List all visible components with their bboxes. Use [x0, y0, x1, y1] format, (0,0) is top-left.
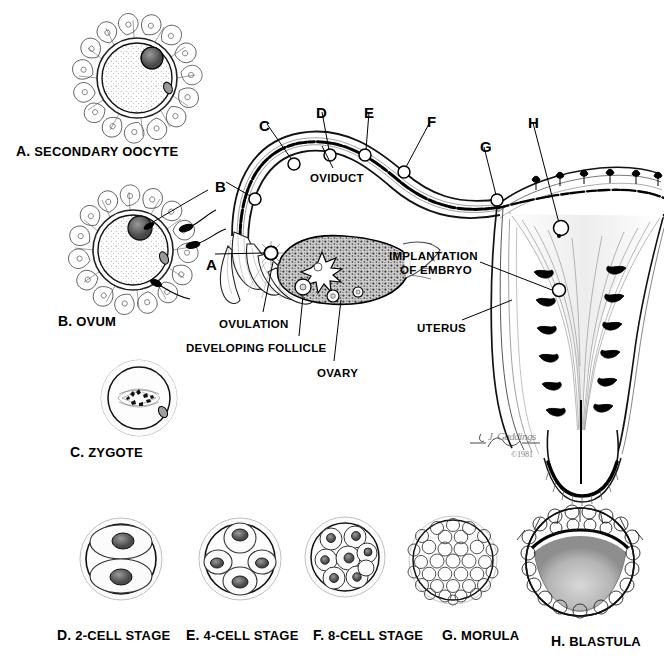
stage-letter-f: F.: [313, 627, 324, 643]
anatomy-illustration: [0, 0, 664, 660]
stage-name-g: MORULA: [461, 628, 519, 643]
label-ovary: OVARY: [317, 367, 358, 380]
stage-caption-h: H. BLASTULA: [551, 633, 641, 649]
stage-letter-d: D.: [57, 627, 71, 643]
marker-D: [324, 149, 336, 161]
marker-letter-f: F: [427, 113, 436, 130]
label-implantation-line2: OF EMBRYO: [400, 264, 472, 277]
stage-name-d: 2-CELL STAGE: [75, 628, 170, 643]
stage-caption-c: C. ZYGOTE: [70, 444, 143, 460]
stage-caption-a: A. SECONDARY OOCYTE: [16, 143, 178, 159]
figure-canvas: A. SECONDARY OOCYTE B. OVUM C. ZYGOTE D.…: [0, 0, 664, 660]
marker-letter-h: H: [528, 114, 539, 131]
stage-letter-e: E.: [186, 627, 200, 643]
leader-uterus: [462, 300, 512, 320]
marker-letter-a: A: [206, 256, 217, 273]
stage-letter-b: B.: [58, 313, 72, 329]
cell-ovum: [67, 185, 226, 316]
stage-caption-g: G. MORULA: [442, 627, 519, 643]
stage-name-c: ZYGOTE: [88, 445, 143, 460]
stage-letter-c: C.: [70, 444, 84, 460]
stage-caption-d: D. 2-CELL STAGE: [57, 627, 170, 643]
stage-name-h: BLASTULA: [569, 634, 641, 649]
marker-G: [491, 194, 503, 206]
stage-caption-e: E. 4-CELL STAGE: [186, 627, 299, 643]
leader-H: [533, 123, 559, 223]
marker-C: [288, 158, 300, 170]
cell-secondary-oocyte: [71, 12, 202, 144]
marker-letter-c: C: [259, 117, 270, 134]
marker-B: [249, 193, 261, 205]
cell-zygote: [101, 360, 177, 436]
label-ovulation: OVULATION: [219, 318, 289, 331]
label-uterus: UTERUS: [417, 322, 466, 335]
fundal-glands: [532, 169, 662, 190]
stage-name-f: 8-CELL STAGE: [328, 628, 423, 643]
stage-name-e: 4-CELL STAGE: [203, 628, 298, 643]
stage-name-a: SECONDARY OOCYTE: [34, 144, 178, 159]
stage-letter-g: G.: [442, 627, 457, 643]
stage-caption-b: B. OVUM: [58, 313, 116, 329]
copyright-notice: ©1981: [511, 450, 533, 459]
label-oviduct: OVIDUCT: [310, 172, 364, 185]
cell-2-cell-stage: [80, 518, 162, 600]
cell-blastula: [517, 505, 643, 618]
label-implantation-line1: IMPLANTATION: [389, 250, 478, 263]
marker-letter-d: D: [316, 104, 327, 121]
stage-caption-f: F. 8-CELL STAGE: [313, 627, 423, 643]
marker-letter-e: E: [364, 104, 374, 121]
cell-morula: [408, 516, 498, 605]
cell-4-cell-stage: [199, 518, 281, 600]
cell-8-cell-stage: [305, 517, 385, 597]
artist-signature: J. Gaddings: [488, 430, 536, 442]
marker-H: [554, 221, 569, 236]
marker-A: [265, 247, 278, 260]
label-developing-follicle: DEVELOPING FOLLICLE: [186, 342, 327, 355]
marker-letter-g: G: [480, 138, 492, 155]
marker-E: [359, 149, 371, 161]
marker-implantation: [553, 284, 566, 297]
leader-ovary: [334, 300, 341, 361]
stage-name-b: OVUM: [76, 314, 116, 329]
stage-letter-h: H.: [551, 633, 565, 649]
marker-letter-b: B: [215, 178, 226, 195]
stage-letter-a: A.: [16, 143, 30, 159]
marker-F: [398, 166, 410, 178]
